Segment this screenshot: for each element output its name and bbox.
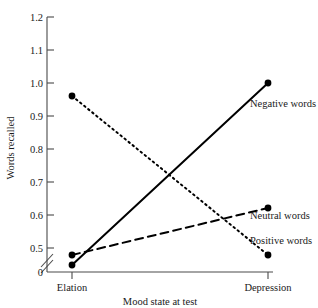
y-tick-label: 0.5 [30, 243, 43, 254]
y-tick-label: 0.7 [30, 177, 43, 188]
data-point-marker [265, 80, 272, 87]
y-tick-label: 0.8 [30, 144, 43, 155]
y-tick-label: 1.0 [30, 78, 43, 89]
series-label-neutral-words: Neutral words [250, 210, 310, 221]
data-point-marker [69, 252, 76, 259]
y-tick-label: 0.9 [30, 111, 43, 122]
series-line-negative-words [72, 83, 268, 265]
y-tick-label: 1.1 [30, 45, 43, 56]
series-negative-words [69, 80, 272, 269]
x-axis-title: Mood state at test [123, 296, 197, 307]
series-label-positive-words: Positive words [250, 235, 312, 246]
data-point-marker [69, 262, 76, 269]
series-line-positive-words [72, 96, 268, 255]
y-tick-label: 0.6 [30, 210, 43, 221]
series-positive-words [69, 93, 272, 259]
x-category-label-elation: Elation [57, 282, 88, 293]
series-label-negative-words: Negative words [250, 98, 316, 109]
y-axis-tick-labels: 1.2 1.1 1.0 0.9 0.8 0.7 0.6 0.5 0 [30, 12, 43, 278]
chart-container: 1.2 1.1 1.0 0.9 0.8 0.7 0.6 0.5 0 Elatio… [0, 0, 318, 308]
y-tick-label: 1.2 [30, 12, 43, 23]
x-category-label-depression: Depression [244, 282, 292, 293]
series-neutral-words [69, 205, 272, 259]
line-chart: 1.2 1.1 1.0 0.9 0.8 0.7 0.6 0.5 0 Elatio… [0, 0, 318, 308]
data-point-marker [69, 93, 76, 100]
y-tick-label-zero: 0 [38, 267, 43, 278]
data-point-marker [265, 252, 272, 259]
y-axis-title: Words recalled [5, 116, 16, 180]
y-axis-ticks [47, 17, 54, 248]
x-axis-ticks [72, 272, 268, 279]
